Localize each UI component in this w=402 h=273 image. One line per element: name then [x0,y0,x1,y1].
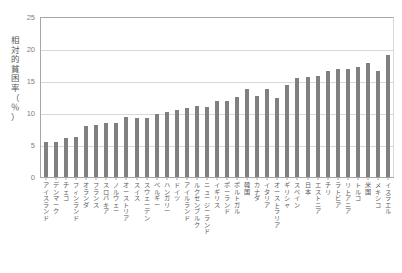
bar-rect [54,142,58,177]
bar [121,17,131,177]
bar-rect [235,97,239,177]
x-axis-tick-label: イ タ リ ア [262,182,272,208]
x-axis-tick-mark [166,177,167,180]
bar [262,17,272,177]
x-axis-tick-mark [156,177,157,180]
x-axis-tick-label: エ ス ト ニ ア [313,182,323,215]
x-axis-tick-label: 韓 国 [242,182,252,195]
x-axis-tick-label: ス イ ス [132,182,142,202]
bar-rect [94,125,98,177]
x-axis-tick-label: イ ス ラ エ ル [383,182,393,215]
bar [222,17,232,177]
bar [282,17,292,177]
bar-rect [165,112,169,177]
bar [162,17,172,177]
bar [242,17,252,177]
x-axis-tick-label: 米 国 [363,182,373,195]
y-axis-tick-label: 0 [14,173,38,182]
x-axis-tick-label: イ ギ リ ス [212,182,222,208]
bar [353,17,363,177]
bar-rect [175,110,179,177]
y-axis-tick-label: 20 [14,45,38,54]
x-axis-tick-mark [66,177,67,180]
bar [272,17,282,177]
x-axis-tick-label: オ ー ス ト ラ リ ア [272,182,282,228]
bar [142,17,152,177]
y-axis-tick-label: 15 [14,77,38,86]
x-axis-tick-label: メ キ シ コ [373,182,383,208]
bar [292,17,302,177]
x-axis-tick-label: ポ ー ラ ン ド [222,182,232,215]
x-axis-tick-mark [46,177,47,180]
x-axis-tick-mark [186,177,187,180]
x-axis-tick-mark [317,177,318,180]
bar [343,17,353,177]
x-axis-tick-mark [367,177,368,180]
x-axis-tick-mark [126,177,127,180]
bar [132,17,142,177]
x-axis-tick-label: 日 本 [303,182,313,195]
x-axis-tick-label: ポ ル ト ガ ル [232,182,242,215]
x-axis-tick-mark [387,177,388,180]
bar [182,17,192,177]
x-axis-tick-mark [277,177,278,180]
x-axis-tick-mark [56,177,57,180]
relative-poverty-rate-bar-chart: 相 対 的 貧 困 率 （ ％ ） 0510152025 ア イ ス ラ ン ド… [0,0,402,273]
bars-layer [41,17,393,177]
bar [232,17,242,177]
x-axis-tick-label: オ ラ ン ダ [81,182,91,208]
bar-rect [356,67,360,177]
bar-rect [346,69,350,177]
bar-rect [114,123,118,177]
y-axis-tick-label: 25 [14,13,38,22]
x-axis-tick-label: フ ィ ン ラ ン ド [71,182,81,222]
bar-rect [124,117,128,177]
bar [71,17,81,177]
bar [363,17,373,177]
bar [91,17,101,177]
x-axis-tick-mark [96,177,97,180]
bar [302,17,312,177]
bar-rect [135,118,139,177]
bar-rect [195,106,199,177]
bar [172,17,182,177]
bar-rect [84,126,88,177]
x-axis-tick-label: チ ェ コ [61,182,71,202]
x-axis-tick-label: ニ ュ ー ジ ー ラ ン ド [202,182,212,235]
bar-rect [44,142,48,177]
bar [111,17,121,177]
bar-rect [205,107,209,177]
bar-rect [64,138,68,177]
x-axis-tick-label: ル ク セ ン ブ ル ク [192,182,202,228]
x-axis-tick-mark [86,177,87,180]
x-axis-tick-labels: ア イ ス ラ ン ドデ ン マ ー クチ ェ コフ ィ ン ラ ン ドオ ラ … [41,182,393,270]
x-axis-tick-mark [337,177,338,180]
bar-rect [386,55,390,177]
x-axis-tick-label: ア イ ル ラ ン ド [182,182,192,222]
bar [51,17,61,177]
x-axis-tick-mark [116,177,117,180]
x-axis-tick-mark [196,177,197,180]
bar [383,17,393,177]
bar-rect [326,71,330,177]
x-axis-tick-label: デ ン マ ー ク [51,182,61,215]
bar-rect [306,77,310,177]
x-axis-tick-mark [257,177,258,180]
bar-rect [295,78,299,177]
bar-rect [215,101,219,177]
x-axis-tick-mark [206,177,207,180]
bar-rect [285,85,289,177]
x-axis-tick-mark [377,177,378,180]
x-axis-tick-label: ス ウ ェ ー デ ン [142,182,152,222]
y-axis-tick-label: 5 [14,141,38,150]
bar [81,17,91,177]
x-axis-tick-mark [216,177,217,180]
x-axis-tick-mark [247,177,248,180]
bar-rect [104,123,108,177]
bar [41,17,51,177]
x-axis-tick-label: ト ル コ [353,182,363,202]
x-axis-tick-label: オ ー ス ト リ ア [121,182,131,222]
x-axis-tick-mark [136,177,137,180]
bar-rect [225,101,229,177]
x-axis-tick-mark [267,177,268,180]
